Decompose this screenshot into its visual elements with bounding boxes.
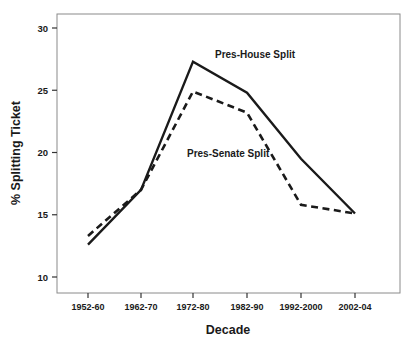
y-tick-label: 30 bbox=[37, 23, 48, 34]
x-tick-label: 1952-60 bbox=[71, 302, 104, 312]
series-annotation-pres-house: Pres-House Split bbox=[215, 49, 296, 60]
y-tick-label: 20 bbox=[37, 147, 48, 158]
y-tick-label: 15 bbox=[37, 209, 48, 220]
line-chart-canvas: 1015202530 1952-601962-701972-801982-901… bbox=[0, 0, 410, 341]
x-tick-label: 1992-2000 bbox=[279, 302, 322, 312]
chart-figure: 1015202530 1952-601962-701972-801982-901… bbox=[0, 0, 410, 341]
series-annotation-pres-senate: Pres-Senate Split bbox=[187, 148, 270, 159]
y-axis-title: % Splitting Ticket bbox=[9, 100, 23, 205]
y-tick-label: 10 bbox=[37, 272, 48, 283]
x-tick-label: 2002-04 bbox=[338, 302, 371, 312]
figure-background bbox=[0, 0, 410, 341]
x-tick-label: 1982-90 bbox=[230, 302, 263, 312]
x-tick-label: 1972-80 bbox=[176, 302, 209, 312]
x-axis-title: Decade bbox=[206, 323, 251, 337]
y-tick-label: 25 bbox=[37, 85, 48, 96]
x-tick-label: 1962-70 bbox=[124, 302, 157, 312]
